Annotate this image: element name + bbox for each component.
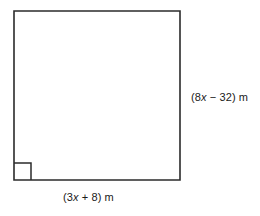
right-label-unit: m — [239, 91, 248, 103]
bottom-label-close-paren: ) — [98, 191, 102, 203]
right-label-operator: − — [210, 91, 217, 103]
bottom-label-operator: + — [82, 191, 89, 203]
bottom-label-variable: x — [73, 191, 79, 203]
bottom-side-length-label: (3x + 8) m — [63, 191, 114, 203]
right-side-length-label: (8x − 32) m — [191, 91, 248, 103]
figure-canvas: (8x − 32) m (3x + 8) m — [0, 0, 260, 216]
right-label-close-paren: ) — [232, 91, 236, 103]
quadrilateral-outline — [14, 11, 180, 180]
right-label-variable: x — [201, 91, 207, 103]
right-label-constant: 32 — [219, 91, 231, 103]
bottom-label-unit: m — [105, 191, 114, 203]
geometry-figure — [0, 0, 260, 216]
